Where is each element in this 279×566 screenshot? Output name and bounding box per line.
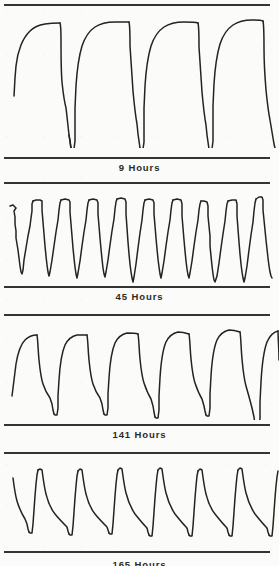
panel-1-label: 9 Hours	[0, 162, 279, 173]
panel-3-top-rule	[4, 314, 270, 316]
panel-1-bottom-rule	[4, 157, 270, 159]
panel-2-label: 45 Hours	[0, 291, 279, 302]
panel-3-trace	[0, 318, 279, 420]
panel-2-bottom-rule	[4, 286, 270, 288]
panel-1-trace	[0, 8, 279, 148]
figure-multi-panel-waveform: 9 Hours 45 Hours	[0, 0, 279, 566]
panel-4-label: 165 Hours	[0, 559, 279, 566]
panel-3-bottom-rule	[4, 424, 270, 426]
panel-4-trace	[0, 456, 279, 546]
panel-2-trace	[0, 186, 279, 284]
panel-1-top-rule	[4, 4, 270, 6]
panel-4-bottom-rule	[4, 551, 270, 553]
panel-4-top-rule	[4, 452, 270, 454]
panel-2-top-rule	[4, 182, 270, 184]
panel-3-label: 141 Hours	[0, 429, 279, 440]
